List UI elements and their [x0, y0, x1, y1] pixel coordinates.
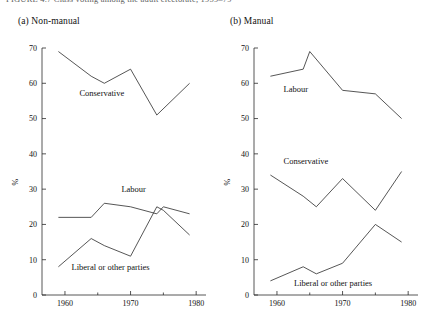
- y-tick-label: 20: [241, 220, 249, 229]
- panel-manual: (b) Manual 010203040506070196019701980%L…: [212, 10, 424, 326]
- y-tick-label: 40: [241, 150, 249, 159]
- series-line-liberal-or-other-parties: [58, 207, 189, 267]
- series-label-labour: Labour: [121, 184, 146, 194]
- y-tick-label: 40: [29, 150, 37, 159]
- y-tick-label: 70: [29, 44, 37, 53]
- series-line-labour: [58, 203, 189, 217]
- x-tick-label: 1970: [335, 299, 351, 308]
- x-tick-label: 1960: [57, 299, 73, 308]
- y-tick-label: 0: [245, 291, 249, 300]
- figure-caption-strip: FIGURE 4.7 Class voting among the adult …: [0, 0, 425, 10]
- x-tick-label: 1980: [188, 299, 204, 308]
- y-tick-label: 30: [29, 185, 37, 194]
- y-tick-label: 70: [241, 44, 249, 53]
- y-tick-label: 30: [241, 185, 249, 194]
- series-label-conservative: Conservative: [284, 156, 329, 166]
- y-tick-label: 20: [29, 220, 37, 229]
- y-tick-label: 60: [29, 79, 37, 88]
- y-axis-label: %: [11, 178, 20, 185]
- y-tick-label: 10: [29, 256, 37, 265]
- series-line-conservative: [58, 52, 189, 116]
- chart-manual: 010203040506070196019701980%LabourConser…: [212, 10, 424, 326]
- axis-frame: [42, 48, 206, 295]
- series-label-liberal-or-other-parties: Liberal or other parties: [294, 278, 372, 288]
- x-tick-label: 1960: [269, 299, 285, 308]
- series-label-conservative: Conservative: [79, 88, 124, 98]
- y-tick-label: 0: [33, 291, 37, 300]
- y-tick-label: 50: [29, 114, 37, 123]
- series-label-liberal-or-other-parties: Liberal or other parties: [72, 262, 150, 272]
- series-label-labour: Labour: [284, 84, 309, 94]
- y-axis-label: %: [223, 178, 232, 185]
- y-tick-label: 60: [241, 79, 249, 88]
- figure-caption: FIGURE 4.7 Class voting among the adult …: [6, 0, 232, 4]
- chart-non-manual: 010203040506070196019701980%Conservative…: [0, 10, 212, 326]
- panel-non-manual: (a) Non-manual 0102030405060701960197019…: [0, 10, 212, 326]
- y-tick-label: 50: [241, 114, 249, 123]
- series-line-conservative: [270, 172, 401, 211]
- series-line-liberal-or-other-parties: [270, 224, 401, 280]
- y-tick-label: 10: [241, 256, 249, 265]
- x-tick-label: 1980: [400, 299, 416, 308]
- axis-frame: [254, 48, 418, 295]
- x-tick-label: 1970: [123, 299, 139, 308]
